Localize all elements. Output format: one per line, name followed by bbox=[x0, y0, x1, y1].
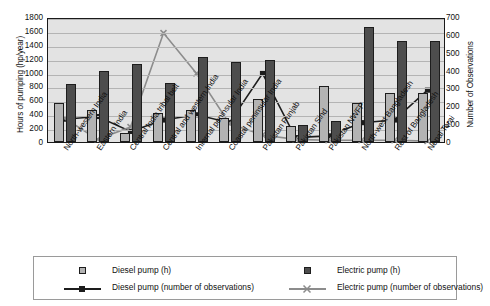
x-axis-category-labels: North-western IndiaEastern IndiaCentral … bbox=[0, 143, 490, 253]
legend-label: Diesel pump (number of observations) bbox=[112, 281, 254, 293]
y-tick-label-left: 400 bbox=[13, 111, 43, 119]
y-tick-label-right: 700 bbox=[446, 14, 476, 22]
y-tick-label-right: 300 bbox=[446, 85, 476, 93]
y-tick-label-left: 1200 bbox=[13, 56, 43, 64]
gridline bbox=[48, 47, 444, 48]
y-tick-label-left: 600 bbox=[13, 97, 43, 105]
y-tick-label-right: 600 bbox=[446, 32, 476, 40]
bar-diesel-hours bbox=[120, 133, 130, 142]
gridline bbox=[48, 33, 444, 34]
gridline bbox=[48, 19, 444, 20]
gridline bbox=[48, 61, 444, 62]
y-tick-label-right: 500 bbox=[446, 50, 476, 58]
y-tick-label-left: 1600 bbox=[13, 28, 43, 36]
y-tick-label-left: 1800 bbox=[13, 14, 43, 22]
legend-swatch-electric-hours bbox=[304, 267, 311, 274]
bar-diesel-hours bbox=[286, 126, 296, 142]
bar-electric-hours bbox=[364, 27, 374, 142]
legend-label: Electric pump (h) bbox=[337, 264, 400, 276]
y-tick-label-left: 800 bbox=[13, 83, 43, 91]
legend-label: Electric pump (number of observations) bbox=[337, 281, 483, 293]
legend-label: Diesel pump (h) bbox=[112, 264, 171, 276]
chart-root: Hours of pumping (hp/year) Number of Obs… bbox=[0, 0, 490, 306]
legend-line-diesel-observations bbox=[63, 281, 103, 293]
y-tick-label-left: 1400 bbox=[13, 42, 43, 50]
y-tick-label-left: 200 bbox=[13, 125, 43, 133]
y-tick-label-left: 1000 bbox=[13, 70, 43, 78]
bar-diesel-hours bbox=[54, 103, 64, 142]
y-tick-label-right: 400 bbox=[446, 68, 476, 76]
y-tick-label-right: 200 bbox=[446, 103, 476, 111]
chart-legend: Diesel pump (h)Electric pump (h) Diesel … bbox=[33, 256, 457, 300]
legend-swatch-diesel-hours bbox=[79, 267, 86, 274]
legend-line-electric-observations bbox=[288, 281, 328, 293]
